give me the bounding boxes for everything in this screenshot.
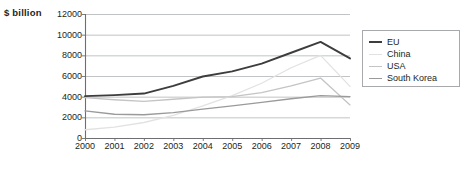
legend-item-usa: USA (369, 60, 459, 72)
x-tick-label: 2004 (193, 141, 213, 151)
series-lines (85, 42, 350, 130)
series-line-eu (85, 42, 350, 96)
series-line-south-korea (85, 96, 350, 115)
legend-item-south-korea: South Korea (369, 72, 459, 84)
series-line-china (85, 55, 350, 129)
x-tick-label: 2003 (163, 141, 183, 151)
x-tick-label: 2009 (340, 141, 360, 151)
x-tick-label: 2002 (134, 141, 154, 151)
x-tick-label: 2001 (104, 141, 124, 151)
legend-swatch-south-korea (369, 78, 382, 79)
line-chart: $ billion 120001000080006000400020000 20… (0, 0, 465, 177)
legend-item-china: China (369, 48, 459, 60)
legend: EU China USA South Korea (362, 30, 460, 87)
x-tick-label: 2008 (311, 141, 331, 151)
legend-swatch-usa (369, 66, 382, 67)
x-axis-tick-labels: 2000200120022003200420052006200720082009 (0, 141, 465, 155)
x-tick-label: 2000 (75, 141, 95, 151)
x-tick-label: 2005 (222, 141, 242, 151)
gridlines (85, 15, 350, 139)
legend-label-south-korea: South Korea (387, 73, 437, 83)
legend-label-usa: USA (387, 61, 406, 71)
legend-swatch-china (369, 54, 382, 55)
x-tick-label: 2007 (281, 141, 301, 151)
legend-item-eu: EU (369, 36, 459, 48)
x-tick-label: 2006 (252, 141, 272, 151)
legend-label-china: China (387, 49, 411, 59)
legend-swatch-eu (369, 41, 382, 43)
legend-label-eu: EU (387, 37, 400, 47)
